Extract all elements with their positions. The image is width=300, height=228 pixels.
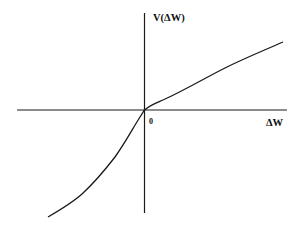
chart-canvas: V(ΔW) 0 ΔW: [0, 0, 300, 228]
value-function-curve: [48, 42, 283, 217]
x-axis-label: ΔW: [266, 117, 284, 128]
y-axis-label: V(ΔW): [153, 12, 185, 24]
origin-label: 0: [149, 117, 153, 126]
